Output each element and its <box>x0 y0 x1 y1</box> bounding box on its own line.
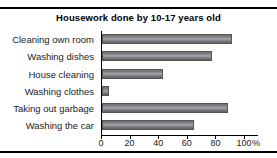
bar-house-cleaning <box>102 69 163 79</box>
bar-cleaning-own-room <box>102 34 232 44</box>
bar-washing-the-car <box>102 120 194 130</box>
figure-bottom-rule <box>0 151 277 153</box>
category-label: Washing dishes <box>0 48 98 65</box>
x-tick-label: 100 <box>236 138 251 148</box>
category-label: Taking out garbage <box>0 100 98 117</box>
bar-row <box>102 66 258 83</box>
x-axis-unit-label: % <box>252 138 260 148</box>
x-tick-label: 40 <box>153 138 163 148</box>
x-tick-label: 80 <box>210 138 220 148</box>
bar-row <box>102 48 258 65</box>
x-tick-label: 0 <box>98 138 103 148</box>
bar-row <box>102 117 258 134</box>
bar-row <box>102 83 258 100</box>
figure-top-rule <box>0 7 277 9</box>
x-tick-label: 20 <box>125 138 135 148</box>
bar-washing-dishes <box>102 51 212 61</box>
value-axis-labels: 0 20 40 60 80 100 % <box>0 138 277 150</box>
bar-chart-figure: Housework done by 10-17 years old Cleani… <box>0 0 277 158</box>
bar-row <box>102 100 258 117</box>
bar-row <box>102 31 258 48</box>
category-label: House cleaning <box>0 66 98 83</box>
category-label: Cleaning own room <box>0 31 98 48</box>
x-tick-label: 60 <box>182 138 192 148</box>
plot-area <box>101 31 258 136</box>
category-label: Washing the car <box>0 117 98 134</box>
bar-taking-out-garbage <box>102 103 228 113</box>
bars-group <box>102 31 258 135</box>
category-label: Washing clothes <box>0 83 98 100</box>
x-axis-line <box>101 135 258 136</box>
chart-title: Housework done by 10-17 years old <box>0 12 277 23</box>
bar-washing-clothes <box>102 86 109 96</box>
category-axis-labels: Cleaning own room Washing dishes House c… <box>0 31 98 135</box>
